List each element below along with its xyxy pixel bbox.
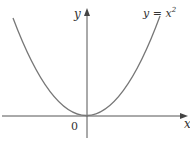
curve-label-lhs: y = x xyxy=(142,7,172,20)
y-axis-arrow-icon xyxy=(84,8,90,16)
curve-label: y = x2 xyxy=(142,6,177,20)
y-axis-label: y xyxy=(73,7,81,21)
parabola-chart: y x 0 y = x2 xyxy=(0,0,190,144)
origin-label: 0 xyxy=(71,120,78,133)
curve-label-exponent: 2 xyxy=(171,6,177,14)
x-axis-label: x xyxy=(184,117,190,131)
